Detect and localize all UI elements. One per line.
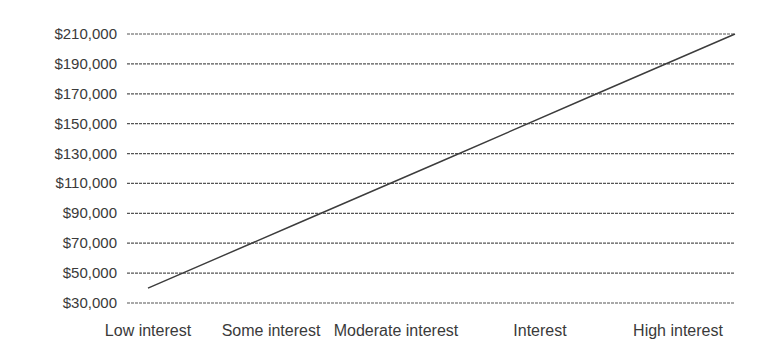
y-tick-label: $130,000 (54, 145, 117, 162)
x-tick-label: Interest (513, 322, 567, 339)
gridlines (127, 34, 735, 303)
y-tick-label: $190,000 (54, 55, 117, 72)
y-axis-labels: $30,000$50,000$70,000$90,000$110,000$130… (54, 25, 117, 311)
series-line (148, 34, 735, 288)
y-tick-label: $70,000 (63, 234, 117, 251)
x-tick-label: High interest (633, 322, 723, 339)
line-chart: $30,000$50,000$70,000$90,000$110,000$130… (0, 0, 777, 359)
y-tick-label: $50,000 (63, 264, 117, 281)
x-tick-label: Moderate interest (334, 322, 459, 339)
x-axis-labels: Low interestSome interestModerate intere… (105, 322, 724, 339)
y-tick-label: $210,000 (54, 25, 117, 42)
x-tick-label: Low interest (105, 322, 192, 339)
data-series (148, 34, 735, 288)
y-tick-label: $170,000 (54, 85, 117, 102)
y-tick-label: $150,000 (54, 115, 117, 132)
y-tick-label: $110,000 (56, 174, 117, 191)
y-tick-label: $90,000 (63, 204, 117, 221)
x-tick-label: Some interest (222, 322, 321, 339)
y-tick-label: $30,000 (63, 294, 117, 311)
